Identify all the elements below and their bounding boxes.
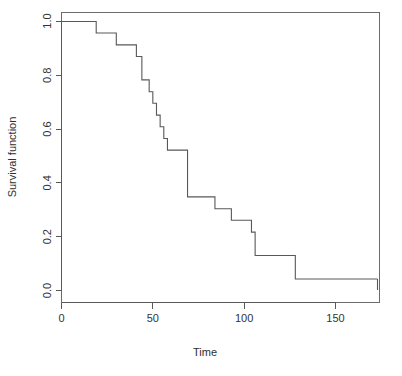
- y-axis-tick-labels: 1.0 0.8 0.6 0.4 0.2 0.0: [41, 13, 53, 298]
- x-tick-label-150: 150: [326, 312, 344, 324]
- y-tick-label-0.2: 0.2: [41, 229, 53, 244]
- x-tick-label-100: 100: [235, 312, 253, 324]
- x-axis-tick-labels: 0 50 100 150: [58, 312, 344, 324]
- y-tick-label-1.0: 1.0: [41, 13, 53, 28]
- y-tick-label-0.8: 0.8: [41, 68, 53, 83]
- y-axis-ticks: [56, 22, 62, 291]
- survival-step-curve: [62, 22, 378, 290]
- chart-canvas: 1.0 0.8 0.6 0.4 0.2 0.0 0 50 100 150 Tim…: [0, 0, 402, 376]
- y-tick-label-0.6: 0.6: [41, 121, 53, 136]
- y-axis-title: Survival function: [6, 117, 18, 198]
- x-axis-title: Time: [193, 346, 217, 358]
- y-tick-label-0.0: 0.0: [41, 283, 53, 298]
- y-tick-label-0.4: 0.4: [41, 175, 53, 190]
- survival-plot-figure: 1.0 0.8 0.6 0.4 0.2 0.0 0 50 100 150 Tim…: [0, 0, 402, 376]
- x-tick-label-50: 50: [147, 312, 159, 324]
- x-tick-label-0: 0: [58, 312, 64, 324]
- x-axis-ticks: [62, 303, 336, 309]
- plot-frame: [62, 13, 380, 303]
